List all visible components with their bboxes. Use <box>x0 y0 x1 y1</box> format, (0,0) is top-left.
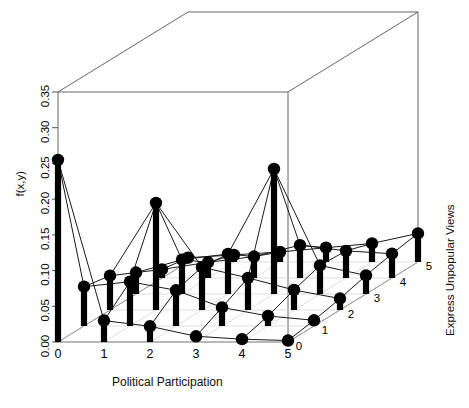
data-point <box>412 227 424 239</box>
data-point <box>334 292 346 304</box>
mesh-line <box>242 339 288 340</box>
y-tick-label: 5 <box>426 260 432 272</box>
plot-canvas: 0.000.050.100.150.200.250.300.35 012345 … <box>0 0 469 408</box>
z-tick-label: 0.20 <box>39 192 51 214</box>
data-point <box>236 333 248 345</box>
data-point <box>78 281 90 293</box>
data-point <box>340 245 352 257</box>
y-tick-label: 4 <box>400 276 407 288</box>
y-tick-label: 1 <box>322 324 328 336</box>
data-point <box>294 239 306 251</box>
data-point <box>52 154 64 166</box>
data-point <box>274 246 286 258</box>
z-tick-label: 0.05 <box>39 299 51 321</box>
data-point <box>268 163 280 175</box>
x-tick-label: 2 <box>147 347 154 361</box>
z-tick-label: 0.30 <box>39 121 51 143</box>
data-point <box>176 254 188 266</box>
data-point <box>156 263 168 275</box>
mesh-line <box>274 169 300 245</box>
data-point <box>104 270 116 282</box>
mesh-line <box>58 160 84 287</box>
z-axis-label: f(x,y) <box>14 171 26 197</box>
data-point <box>216 301 228 313</box>
figure-3d-stem-plot: 0.000.050.100.150.200.250.300.35 012345 … <box>0 0 469 408</box>
mesh-line <box>156 203 182 260</box>
data-point <box>144 320 156 332</box>
mesh-line <box>268 316 314 320</box>
data-point <box>386 248 398 260</box>
box-edge-right-top <box>288 12 418 92</box>
z-tick-label: 0.00 <box>39 335 51 357</box>
z-tick-label: 0.10 <box>39 263 51 285</box>
data-point <box>288 284 300 296</box>
y-axis-label: Express Unpopular Views <box>444 205 456 336</box>
box-edge-left-top <box>58 12 188 92</box>
x-tick-label: 1 <box>101 347 108 361</box>
data-point <box>248 250 260 262</box>
data-point <box>190 330 202 342</box>
data-point <box>170 284 182 296</box>
x-tick-label: 5 <box>285 347 292 361</box>
data-point <box>282 334 294 346</box>
data-point <box>124 276 136 288</box>
y-tick-label: 0 <box>296 340 302 352</box>
x-tick-label: 0 <box>55 347 62 361</box>
mesh-line <box>110 203 156 276</box>
data-points <box>52 154 424 347</box>
data-point <box>150 197 162 209</box>
x-tick-label: 3 <box>193 347 200 361</box>
y-tick-label: 2 <box>348 308 354 320</box>
data-point <box>262 310 274 322</box>
data-point <box>98 314 110 326</box>
x-axis-ticks: 012345 <box>55 347 292 361</box>
x-tick-label: 4 <box>239 347 246 361</box>
data-point <box>222 248 234 260</box>
data-point <box>314 259 326 271</box>
mesh-line <box>228 169 274 254</box>
data-point <box>308 314 320 326</box>
data-point <box>360 269 372 281</box>
z-tick-label: 0.25 <box>39 156 51 178</box>
data-point <box>242 272 254 284</box>
figure-title <box>0 0 469 2</box>
z-tick-label: 0.15 <box>39 228 51 250</box>
z-tick-label: 0.35 <box>39 85 51 107</box>
data-point <box>366 237 378 249</box>
y-tick-label: 3 <box>374 292 380 304</box>
data-point <box>196 261 208 273</box>
x-axis-label: Political Participation <box>112 375 223 389</box>
data-point <box>320 242 332 254</box>
